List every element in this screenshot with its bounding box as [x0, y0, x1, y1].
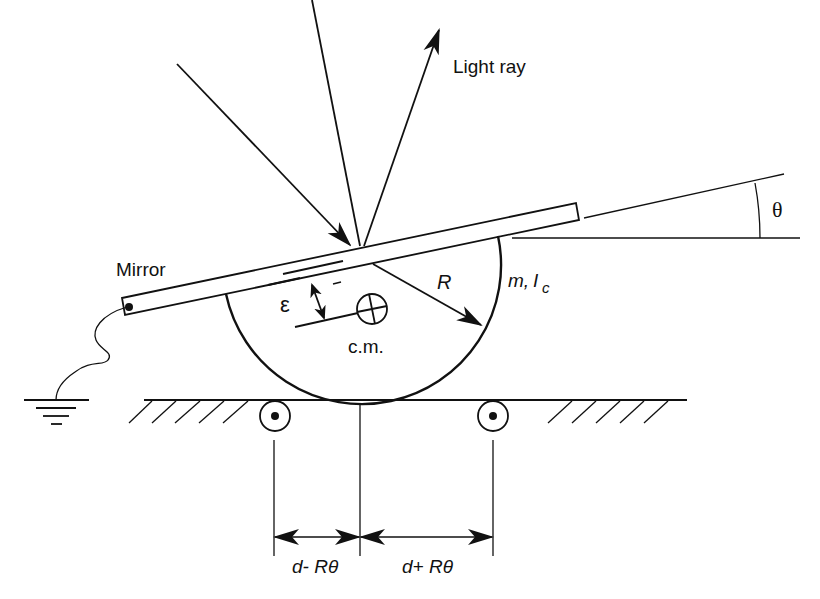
- light-ray-label: Light ray: [453, 56, 526, 77]
- radius-label: R: [437, 271, 451, 293]
- reflected-ray: [364, 30, 439, 246]
- theta-angle-indicator: [512, 174, 800, 238]
- svg-text:I: I: [533, 270, 539, 291]
- svg-text:m,: m,: [508, 270, 529, 291]
- left-distance-label: d- Rθ: [292, 556, 339, 577]
- mirror-balance-diagram: Light ray Mirror ε c.m. R m, I c θ: [0, 0, 820, 599]
- center-of-mass-label: c.m.: [348, 336, 384, 357]
- mirror-surface-line-right: [333, 282, 341, 284]
- mirror-normal-line: [312, 0, 360, 246]
- mirror-bar: [122, 203, 579, 315]
- center-of-mass-marker: [357, 294, 387, 324]
- mirror-label: Mirror: [116, 259, 166, 280]
- epsilon-label: ε: [280, 292, 290, 317]
- svg-text:c: c: [542, 279, 550, 296]
- theta-label: θ: [772, 197, 783, 222]
- earth-ground-symbol: [24, 400, 89, 424]
- cm-reference-line: [295, 313, 358, 327]
- epsilon-dimension-arrow: [312, 285, 324, 318]
- ground-wire: [56, 307, 127, 400]
- radius-arrow: [373, 264, 481, 325]
- ground-hatching-right: [548, 401, 668, 423]
- left-roller: [260, 401, 290, 431]
- light-rays: [177, 0, 439, 246]
- semicircular-body: [226, 236, 501, 404]
- incident-ray: [177, 64, 350, 245]
- ground-hatching-left: [129, 401, 248, 423]
- right-roller: [478, 401, 508, 431]
- epsilon-top-reference: [268, 278, 300, 285]
- mass-inertia-label: m, I c: [508, 270, 550, 296]
- right-distance-label: d+ Rθ: [402, 556, 454, 577]
